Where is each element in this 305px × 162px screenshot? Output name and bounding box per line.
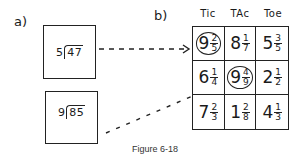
- connector-overlay: [0, 0, 305, 162]
- dashed-line-connector-2: [106, 95, 195, 133]
- dashed-arrow-connector-1: [99, 45, 189, 53]
- figure-canvas: a) 5 47 9 85 b) Tic TAc Toe 9 25 8 17: [0, 0, 305, 162]
- figure-caption: Figure 6-18: [132, 144, 178, 154]
